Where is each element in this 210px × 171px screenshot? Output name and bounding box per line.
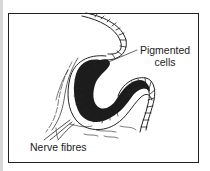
pigmented-label-line2: cells	[136, 56, 194, 68]
pigmented-cells-label: Pigmented cells	[136, 44, 194, 68]
nerve-fibres-label: Nerve fibres	[30, 141, 87, 153]
pigmented-label-line1: Pigmented	[136, 44, 194, 56]
